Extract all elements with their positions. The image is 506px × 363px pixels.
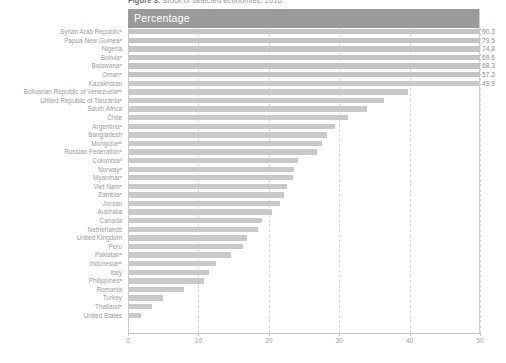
- category-label: Syrian Arab Republicᵃ: [0, 28, 125, 37]
- bar: [128, 304, 152, 309]
- bar: [128, 115, 348, 120]
- tick-50: [480, 333, 481, 336]
- bar-row: [128, 62, 480, 71]
- tick-label-40: 40: [406, 337, 413, 344]
- value-label: [482, 286, 506, 295]
- bar-row: [128, 88, 480, 97]
- category-label: United Kingdom: [0, 234, 125, 243]
- category-label: Colombiaᵈ: [0, 157, 125, 166]
- bar-row: [128, 312, 480, 321]
- bar-row: [128, 28, 480, 37]
- bar-row: [128, 114, 480, 123]
- bar-row: [128, 71, 480, 80]
- tick-label-20: 20: [265, 337, 272, 344]
- bar: [128, 184, 287, 189]
- bar-row: [128, 260, 480, 269]
- value-label: [482, 140, 506, 149]
- bar: [128, 244, 243, 249]
- bar-row: [128, 243, 480, 252]
- plot-area: [128, 28, 480, 333]
- category-label: United States: [0, 312, 125, 321]
- bar: [128, 98, 384, 103]
- bar: [128, 158, 298, 163]
- bar: [128, 270, 209, 275]
- bar: [128, 192, 284, 197]
- figure-title: Figure 3. Stock of selected economies, 2…: [128, 0, 458, 5]
- category-label: Papua New Guineaᵃ: [0, 37, 125, 46]
- category-label: Chile: [0, 114, 125, 123]
- bar: [128, 261, 216, 266]
- bar-row: [128, 166, 480, 175]
- value-label: 74.8: [482, 45, 506, 54]
- value-label: [482, 226, 506, 235]
- category-label: Romania: [0, 286, 125, 295]
- bar-row: [128, 97, 480, 106]
- category-label: Peru: [0, 243, 125, 252]
- value-label: [482, 234, 506, 243]
- bar: [128, 29, 480, 34]
- value-label: [482, 312, 506, 321]
- category-label: United Republic of Tanzaniaᵃ: [0, 97, 125, 106]
- bar-row: [128, 148, 480, 157]
- value-label: [482, 200, 506, 209]
- bar-row: [128, 183, 480, 192]
- value-label: 49.9: [482, 80, 506, 89]
- bar: [128, 235, 247, 240]
- bar-row: [128, 286, 480, 295]
- value-label: 68.3: [482, 62, 506, 71]
- category-label: Bolivarian Republic of Venezuelaᵃᵇ: [0, 88, 125, 97]
- tick-label-50: 50: [476, 337, 483, 344]
- category-label: Philippinesᵃ: [0, 277, 125, 286]
- category-label: Kazakhstan: [0, 80, 125, 89]
- bar-row: [128, 294, 480, 303]
- bar-row: [128, 208, 480, 217]
- bar-row: [128, 269, 480, 278]
- bar: [128, 313, 141, 318]
- bar: [128, 252, 231, 257]
- category-label: Argentinaᵃ: [0, 123, 125, 132]
- bar-row: [128, 157, 480, 166]
- category-label: Botswanaᵃ: [0, 62, 125, 71]
- bars-container: [128, 28, 480, 320]
- bar: [128, 278, 204, 283]
- x-axis-line: [128, 333, 480, 334]
- value-label: [482, 123, 506, 132]
- bar: [128, 55, 480, 60]
- value-label: [482, 148, 506, 157]
- bar-row: [128, 217, 480, 226]
- category-label: Turkey: [0, 294, 125, 303]
- value-label: [482, 251, 506, 260]
- bar: [128, 167, 294, 172]
- bar: [128, 141, 322, 146]
- tick-0: [128, 333, 129, 336]
- category-label: Indonesiaᵃᵇ: [0, 260, 125, 269]
- bar-row: [128, 226, 480, 235]
- bar-row: [128, 174, 480, 183]
- bar-row: [128, 37, 480, 46]
- category-label: Russian Federationᵃ: [0, 148, 125, 157]
- value-label: [482, 277, 506, 286]
- bar-row: [128, 140, 480, 149]
- value-label: [482, 97, 506, 106]
- bar-row: [128, 251, 480, 260]
- value-label: 69.6: [482, 54, 506, 63]
- figure-title-bold: Figure 3.: [128, 0, 160, 5]
- tick-30: [339, 333, 340, 336]
- category-label: Zambiaᵃ: [0, 191, 125, 200]
- bar: [128, 81, 479, 86]
- category-label: Bangladesh: [0, 131, 125, 140]
- bar: [128, 287, 184, 292]
- value-label: [482, 260, 506, 269]
- category-label: Boliviaᵃ: [0, 54, 125, 63]
- bar: [128, 124, 335, 129]
- tick-40: [410, 333, 411, 336]
- value-label: [482, 243, 506, 252]
- bar: [128, 149, 317, 154]
- value-label: [482, 174, 506, 183]
- bar-row: [128, 80, 480, 89]
- tick-label-30: 30: [336, 337, 343, 344]
- column-header-band: Percentage: [128, 9, 480, 28]
- value-label: [482, 105, 506, 114]
- category-label: Canada: [0, 217, 125, 226]
- tick-label-10: 10: [195, 337, 202, 344]
